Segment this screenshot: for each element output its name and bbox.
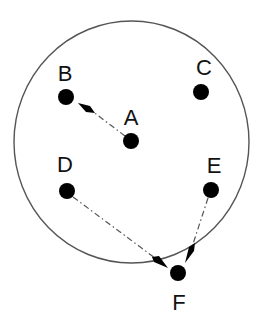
edge-e-to-f <box>185 198 208 263</box>
node-e: E <box>203 153 221 199</box>
arrowhead-icon <box>185 243 195 263</box>
node-label: D <box>57 152 73 177</box>
node-b: B <box>58 61 74 106</box>
node-label: A <box>124 105 139 130</box>
diagram-canvas: A B C D E F <box>0 0 259 329</box>
edge-a-to-b <box>78 103 125 136</box>
node-a: A <box>123 105 139 150</box>
node-dot <box>203 182 219 198</box>
node-dot <box>123 133 139 149</box>
node-label: F <box>172 290 185 315</box>
node-dot <box>59 183 75 199</box>
node-f: F <box>170 265 186 315</box>
node-label: C <box>196 55 212 80</box>
node-label: E <box>207 153 222 178</box>
node-dot <box>170 265 186 281</box>
node-label: B <box>58 61 73 86</box>
arrowhead-icon <box>78 103 95 113</box>
node-dot <box>193 84 209 100</box>
node-d: D <box>57 152 75 200</box>
node-dot <box>58 89 74 105</box>
node-c: C <box>193 55 212 101</box>
edge-d-to-f <box>73 197 168 268</box>
